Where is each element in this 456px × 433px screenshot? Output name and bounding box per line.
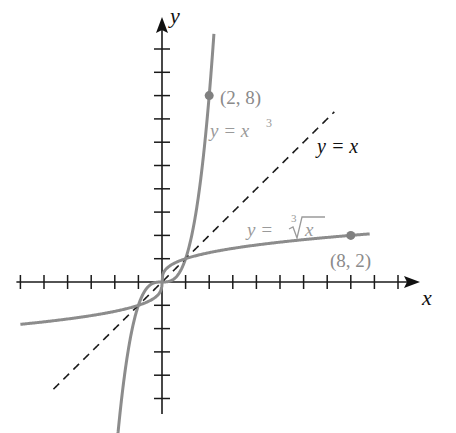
- curve-y-x: [53, 112, 334, 389]
- y-axis-label: y: [168, 3, 180, 28]
- label-cuberoot-function: y = 3 x: [245, 212, 325, 240]
- root-label-index: 3: [291, 212, 297, 224]
- point-label-2-8: (2, 8): [220, 87, 261, 109]
- cube-label-exponent: 3: [266, 116, 272, 130]
- curves: [20, 34, 369, 433]
- axes: [16, 17, 420, 414]
- curve-y-cbrt-x-: [20, 234, 369, 324]
- label-identity-function: y = x: [315, 135, 358, 158]
- root-label-var: x: [304, 219, 314, 240]
- x-axis-label: x: [421, 285, 432, 310]
- curve-y-x-3: [117, 34, 214, 433]
- point-label-8-2: (8, 2): [330, 250, 371, 272]
- label-cube-function: y = x 3: [208, 116, 272, 141]
- cube-label-base: y = x: [208, 120, 250, 141]
- function-graph: y x (2, 8) (8, 2) y = x 3 y = x y = 3 x: [0, 0, 456, 433]
- root-label-prefix: y =: [245, 219, 273, 240]
- point-marker: [346, 231, 355, 240]
- point-marker: [205, 91, 214, 100]
